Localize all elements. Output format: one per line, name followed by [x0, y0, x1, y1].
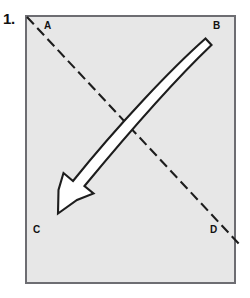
corner-label-b: B — [213, 21, 220, 31]
fold-annotation-layer — [0, 0, 250, 298]
fold-arrow-body-and-head — [58, 39, 212, 214]
origami-step-figure: 1. A B C D — [0, 0, 250, 298]
corner-label-a: A — [44, 21, 51, 31]
corner-label-c: C — [33, 225, 40, 235]
corner-label-d: D — [210, 225, 217, 235]
fold-direction-arrow — [58, 39, 212, 214]
